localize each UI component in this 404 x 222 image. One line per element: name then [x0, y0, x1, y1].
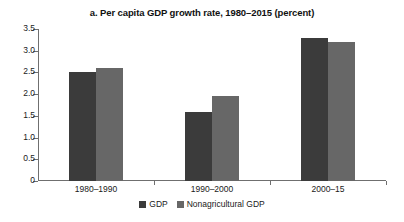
y-axis-tick-label: 2.5 — [23, 66, 35, 76]
y-axis-tick-label: 0 — [30, 175, 35, 185]
bar — [185, 112, 212, 181]
y-axis-tick: 0 — [38, 181, 39, 182]
bar — [69, 72, 96, 181]
x-axis-label: 1980–1990 — [38, 184, 154, 194]
legend-item-label: Nonagricultural GDP — [187, 199, 265, 209]
x-axis-tick-mark — [386, 181, 387, 185]
bars-layer — [38, 29, 386, 181]
y-axis-tick-label: 1.0 — [23, 132, 35, 142]
y-axis-tick-label: 3.5 — [23, 23, 35, 33]
bar — [328, 42, 355, 181]
bar-group — [154, 29, 270, 181]
plot-area: 00.51.01.52.02.53.03.5 1980–19901990–200… — [38, 29, 386, 181]
chart-legend: GDPNonagricultural GDP — [0, 199, 404, 209]
bar-group — [270, 29, 386, 181]
chart-title: a. Per capita GDP growth rate, 1980–2015… — [0, 7, 404, 18]
y-axis-tick-label: 1.5 — [23, 110, 35, 120]
legend-swatch-icon — [139, 201, 146, 208]
y-axis-tick-label: 0.5 — [23, 153, 35, 163]
y-axis-tick-label: 2.0 — [23, 88, 35, 98]
legend-item-label: GDP — [149, 199, 167, 209]
legend-item[interactable]: Nonagricultural GDP — [177, 199, 265, 209]
y-axis-tick-label: 3.0 — [23, 45, 35, 55]
bar-group — [38, 29, 154, 181]
bar — [301, 38, 328, 181]
legend-item[interactable]: GDP — [139, 199, 167, 209]
chart-figure: a. Per capita GDP growth rate, 1980–2015… — [0, 0, 404, 222]
bar — [212, 96, 239, 181]
legend-swatch-icon — [177, 201, 184, 208]
x-axis-label: 2000–15 — [270, 184, 386, 194]
bar — [96, 68, 123, 181]
x-axis-label: 1990–2000 — [154, 184, 270, 194]
